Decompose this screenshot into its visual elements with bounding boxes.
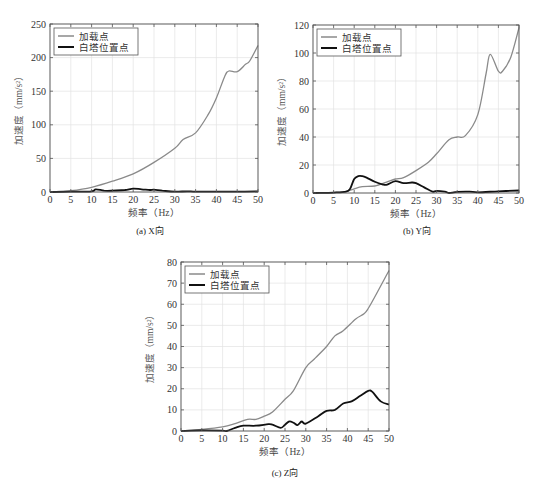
x-tick-label: 45 bbox=[363, 433, 373, 444]
x-axis-label: 频率（Hz） bbox=[259, 446, 310, 457]
x-tick-label: 10 bbox=[218, 433, 228, 444]
y-tick-label: 80 bbox=[167, 257, 177, 268]
x-tick-label: 0 bbox=[179, 433, 184, 444]
y-tick-label: 50 bbox=[167, 320, 177, 331]
y-axis-label: 加速度（mm/s²） bbox=[144, 310, 155, 384]
y-tick-label: 0 bbox=[172, 426, 177, 437]
caption-z-direction: (c) Z向 bbox=[235, 466, 335, 479]
x-tick-label: 50 bbox=[384, 433, 394, 444]
legend: 加载点白塔位置点 bbox=[185, 266, 269, 293]
chart-z-direction: 0510152025303540455001020304050607080频率（… bbox=[0, 0, 545, 480]
x-tick-label: 15 bbox=[238, 433, 248, 444]
x-tick-label: 30 bbox=[301, 433, 311, 444]
y-tick-label: 70 bbox=[167, 278, 177, 289]
x-tick-label: 35 bbox=[322, 433, 332, 444]
legend-label-tower-point: 白塔位置点 bbox=[210, 280, 260, 291]
y-tick-label: 30 bbox=[167, 362, 177, 373]
y-tick-label: 60 bbox=[167, 299, 177, 310]
x-tick-label: 5 bbox=[199, 433, 204, 444]
x-tick-label: 25 bbox=[280, 433, 290, 444]
y-tick-label: 40 bbox=[167, 341, 177, 352]
legend-label-load-point: 加载点 bbox=[210, 269, 240, 280]
x-tick-label: 40 bbox=[342, 433, 352, 444]
y-tick-label: 10 bbox=[167, 404, 177, 415]
y-tick-label: 20 bbox=[167, 383, 177, 394]
x-tick-label: 20 bbox=[259, 433, 269, 444]
